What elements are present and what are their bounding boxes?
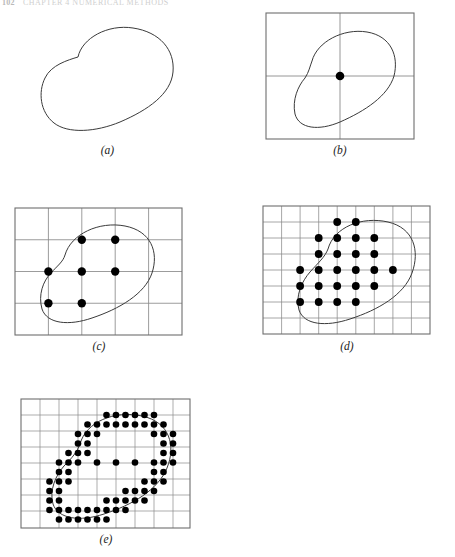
- sample-point: [75, 450, 82, 457]
- sample-point: [315, 266, 323, 274]
- sample-point: [103, 497, 110, 504]
- sample-point: [132, 497, 139, 504]
- panel-b-label: (b): [265, 144, 415, 156]
- sample-point: [56, 469, 63, 476]
- sample-point: [113, 412, 120, 419]
- sample-point: [111, 236, 119, 244]
- sample-point: [352, 282, 360, 290]
- sample-point: [141, 412, 148, 419]
- sample-point: [84, 421, 91, 428]
- panel-c-label: (c): [14, 340, 184, 352]
- sample-point: [78, 236, 86, 244]
- sample-point: [113, 497, 120, 504]
- panel-b: [265, 12, 415, 142]
- sample-point: [151, 488, 158, 495]
- sample-points-e: [46, 412, 176, 523]
- sample-point: [160, 421, 167, 428]
- sample-point: [75, 440, 82, 447]
- panel-a: [20, 12, 195, 142]
- panel-e-figure: [20, 398, 192, 530]
- sample-point: [46, 507, 53, 514]
- sample-point: [151, 412, 158, 419]
- panel-b-figure: [265, 12, 415, 142]
- sample-point: [94, 516, 101, 523]
- sample-point: [370, 250, 378, 258]
- sample-point: [170, 450, 177, 457]
- page-number: 102: [2, 0, 15, 7]
- sample-point: [44, 299, 52, 307]
- sample-point: [65, 516, 72, 523]
- sample-point: [160, 440, 167, 447]
- sample-point: [296, 298, 304, 306]
- sample-point: [46, 478, 53, 485]
- sample-point: [160, 469, 167, 476]
- sample-point: [56, 459, 63, 466]
- sample-point: [352, 266, 360, 274]
- sample-point: [333, 298, 341, 306]
- sample-point: [370, 266, 378, 274]
- panel-d-label: (d): [262, 340, 432, 352]
- sample-point: [389, 266, 397, 274]
- sample-point: [84, 507, 91, 514]
- sample-point: [122, 507, 129, 514]
- sample-point: [315, 298, 323, 306]
- sample-point: [160, 459, 167, 466]
- sample-point: [132, 412, 139, 419]
- sample-point: [65, 450, 72, 457]
- sample-point: [132, 421, 139, 428]
- panel-e: [20, 398, 192, 530]
- sample-point: [78, 267, 86, 275]
- sample-point: [160, 431, 167, 438]
- sample-points-d: [296, 218, 397, 306]
- sample-point: [84, 450, 91, 457]
- panel-a-label: (a): [20, 144, 195, 156]
- sample-point: [65, 459, 72, 466]
- sample-point: [296, 282, 304, 290]
- sample-point: [103, 421, 110, 428]
- sample-point: [122, 412, 129, 419]
- sample-point: [160, 450, 167, 457]
- sample-point: [352, 298, 360, 306]
- sample-point: [315, 234, 323, 242]
- sample-point: [56, 497, 63, 504]
- panel-d-figure: [262, 205, 432, 336]
- sample-point: [170, 459, 177, 466]
- sample-point: [151, 469, 158, 476]
- sample-point: [75, 459, 82, 466]
- sample-point: [56, 507, 63, 514]
- sample-point: [46, 488, 53, 495]
- sample-point: [315, 282, 323, 290]
- chapter-title: CHAPTER 4 NUMERICAL METHODS: [23, 0, 169, 7]
- sample-point: [94, 459, 101, 466]
- sample-point: [65, 507, 72, 514]
- panel-a-figure: [20, 12, 195, 142]
- sample-point: [352, 250, 360, 258]
- sample-point: [170, 431, 177, 438]
- sample-point: [296, 266, 304, 274]
- sample-point: [103, 507, 110, 514]
- sample-point: [315, 250, 323, 258]
- sample-point: [122, 497, 129, 504]
- sample-point: [65, 478, 72, 485]
- sample-point: [333, 250, 341, 258]
- sample-point: [103, 412, 110, 419]
- sample-point: [94, 421, 101, 428]
- panel-d: [262, 205, 432, 336]
- sample-point: [336, 72, 345, 81]
- sample-point: [65, 469, 72, 476]
- sample-point: [113, 507, 120, 514]
- sample-point: [141, 478, 148, 485]
- grid-lines-d: [263, 206, 430, 334]
- sample-point: [370, 282, 378, 290]
- sample-point: [94, 507, 101, 514]
- sample-point: [103, 516, 110, 523]
- sample-point: [122, 421, 129, 428]
- sample-point: [113, 421, 120, 428]
- sample-point: [75, 507, 82, 514]
- panel-c-figure: [14, 207, 184, 337]
- sample-point: [151, 431, 158, 438]
- sample-point: [132, 459, 139, 466]
- sample-point: [56, 488, 63, 495]
- sample-point: [75, 516, 82, 523]
- sample-point: [84, 516, 91, 523]
